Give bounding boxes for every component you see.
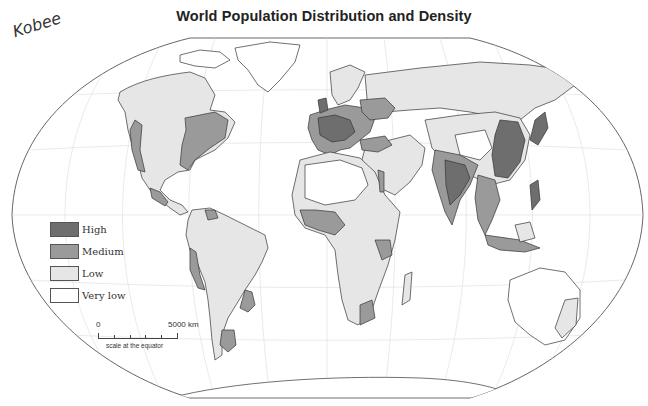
legend-label: Low <box>82 268 103 279</box>
scale-zero-label: 0 <box>96 320 100 329</box>
legend: High Medium Low Very low <box>50 218 126 306</box>
legend-label: High <box>82 224 107 235</box>
legend-swatch-low <box>50 266 79 281</box>
legend-item-very-low: Very low <box>50 284 126 306</box>
scale-bar-line <box>98 333 178 339</box>
scale-bar: 0 5000 km scale at the equator <box>96 320 186 360</box>
legend-item-high: High <box>50 218 126 240</box>
legend-swatch-high <box>50 222 79 237</box>
legend-label: Medium <box>82 246 124 257</box>
scale-caption: scale at the equator <box>106 342 163 349</box>
legend-swatch-medium <box>50 244 79 259</box>
legend-item-low: Low <box>50 262 126 284</box>
new-zealand <box>596 350 608 372</box>
legend-swatch-very-low <box>50 288 79 303</box>
scale-max-label: 5000 km <box>168 320 199 329</box>
legend-label: Very low <box>82 290 126 301</box>
britain <box>318 98 328 113</box>
legend-item-medium: Medium <box>50 240 126 262</box>
